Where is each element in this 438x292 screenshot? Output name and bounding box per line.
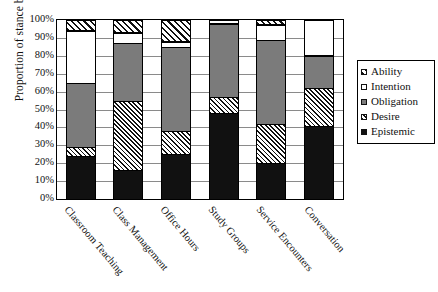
legend-label: Epistemic — [371, 126, 415, 137]
bar-stack — [304, 20, 334, 199]
legend-item: Desire — [361, 109, 431, 124]
legend-label: Desire — [371, 111, 400, 122]
bar-segment-ability — [161, 20, 191, 41]
bar-segment-desire — [66, 147, 96, 156]
y-axis-tick-label: 60% — [18, 85, 54, 97]
x-axis-tick-label: Study Groups — [207, 204, 253, 256]
legend-item: Intention — [361, 79, 431, 94]
legend-item: Obligation — [361, 94, 431, 109]
x-axis-tick-label: Office Hours — [159, 204, 203, 253]
bar-group — [57, 20, 343, 199]
bar-segment-desire — [161, 131, 191, 154]
x-axis-tick-label: Conversation — [303, 204, 347, 254]
y-axis-tick-label: 70% — [18, 67, 54, 79]
bar-segment-epistemic — [66, 156, 96, 199]
legend-item: Ability — [361, 64, 431, 79]
bar-stack — [66, 20, 96, 199]
bar-segment-obligation — [66, 83, 96, 147]
y-axis-tick-label: 80% — [18, 49, 54, 61]
legend-label: Obligation — [371, 96, 418, 107]
chart-figure: Proportion of stance bundles 0%10%20%30%… — [0, 0, 438, 292]
bar-stack — [161, 20, 191, 199]
legend-swatch-icon — [361, 99, 367, 105]
legend-label: Ability — [371, 66, 402, 77]
y-axis-tick-label: 0% — [18, 192, 54, 204]
bar-segment-intention — [304, 20, 334, 56]
bar-stack — [256, 20, 286, 199]
bar-segment-epistemic — [256, 163, 286, 199]
bar-segment-obligation — [113, 43, 143, 100]
bar-segment-epistemic — [209, 113, 239, 199]
y-axis-tick-label: 50% — [18, 103, 54, 115]
legend-label: Intention — [371, 81, 411, 92]
bar-segment-intention — [66, 31, 96, 83]
plot-area — [56, 19, 344, 200]
bar-segment-desire — [209, 97, 239, 113]
bar-segment-obligation — [256, 40, 286, 124]
bar-segment-obligation — [161, 47, 191, 131]
bar-segment-desire — [256, 124, 286, 163]
y-axis-tick-label: 100% — [18, 13, 54, 25]
bar-segment-ability — [113, 20, 143, 33]
bar-segment-epistemic — [304, 126, 334, 199]
bar-segment-desire — [304, 88, 334, 126]
x-axis-tick-labels: Classroom TeachingClass ManagementOffice… — [56, 200, 344, 292]
y-axis-tick-label: 10% — [18, 174, 54, 186]
legend-swatch-icon — [361, 129, 367, 135]
legend-swatch-icon — [361, 84, 367, 90]
bar-segment-obligation — [209, 24, 239, 97]
y-axis-tick-label: 90% — [18, 31, 54, 43]
legend-swatch-icon — [361, 114, 367, 120]
bar-segment-intention — [256, 25, 286, 39]
bar-segment-obligation — [304, 56, 334, 88]
bar-segment-epistemic — [161, 154, 191, 199]
bar-segment-intention — [113, 33, 143, 44]
y-axis-tick-labels: 0%10%20%30%40%50%60%70%80%90%100% — [18, 13, 54, 207]
y-axis-tick-label: 40% — [18, 120, 54, 132]
legend-item: Epistemic — [361, 124, 431, 139]
legend-swatch-icon — [361, 69, 367, 75]
y-axis-tick-label: 30% — [18, 138, 54, 150]
legend: AbilityIntentionObligationDesireEpistemi… — [357, 60, 435, 144]
y-axis-tick-label: 20% — [18, 156, 54, 168]
bar-segment-epistemic — [113, 170, 143, 199]
bar-segment-desire — [113, 101, 143, 171]
bar-stack — [113, 20, 143, 199]
bar-stack — [209, 20, 239, 199]
bar-segment-ability — [66, 20, 96, 31]
